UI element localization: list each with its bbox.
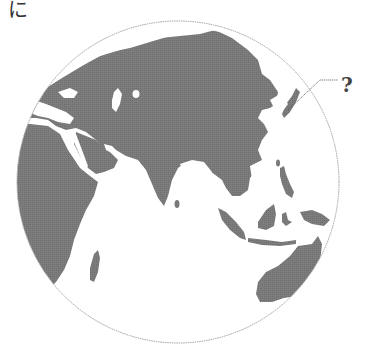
water-aral (133, 90, 140, 98)
land-new-guinea (300, 210, 330, 226)
globe-map (0, 0, 365, 349)
land-sulawesi (282, 212, 292, 226)
landmasses (10, 24, 330, 302)
land-java (248, 238, 296, 246)
land-madagascar (90, 250, 100, 282)
water-south-china-sea (248, 160, 276, 206)
land-australia (256, 236, 322, 302)
callout-question-mark: ? (341, 73, 353, 97)
land-philippines (280, 166, 294, 198)
land-taiwan (276, 160, 280, 167)
land-borneo (258, 204, 276, 230)
land-sumatra (218, 208, 246, 240)
land-sri-lanka (175, 200, 180, 208)
